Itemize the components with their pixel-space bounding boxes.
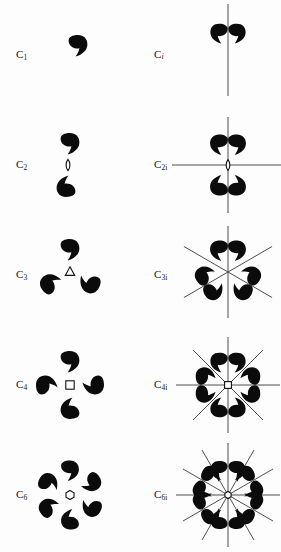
comma-motif <box>210 175 228 196</box>
threefold-triangle-icon <box>65 267 74 276</box>
comma-motif <box>228 240 246 261</box>
diagram-row-3: C3 <box>0 220 281 330</box>
diagram-row-2: C2 C2i <box>0 110 281 220</box>
twofold-lens-icon <box>66 159 70 170</box>
diagram-cell-c6: C6 <box>0 440 140 550</box>
diagram-cell-c1: C1 <box>0 0 140 110</box>
comma-motif <box>61 133 80 155</box>
comma-motif <box>228 134 246 155</box>
diagram-cell-c3: C3 <box>0 220 140 330</box>
comma-motif <box>238 262 265 288</box>
diagram-cell-c4: C4 <box>0 330 140 440</box>
motif-stage-c4i <box>152 330 280 440</box>
comma-motif <box>36 376 58 395</box>
comma-motif <box>228 175 246 196</box>
diagram-cell-c2: C2 <box>0 110 140 220</box>
comma-motif <box>36 494 63 520</box>
diagram-cell-ci: Ci <box>140 0 281 110</box>
comma-motif <box>78 470 105 496</box>
diagram-row-1: C1 Ci <box>0 0 281 110</box>
motif-stage-c4 <box>20 330 140 440</box>
comma-motif <box>210 24 227 44</box>
comma-motif <box>210 134 228 155</box>
comma-motif <box>69 35 88 57</box>
comma-motif <box>37 270 65 297</box>
twofold-lens-icon <box>226 160 230 171</box>
comma-motif <box>82 376 104 395</box>
motif-stage-c3i <box>152 220 280 330</box>
comma-motif <box>192 262 219 288</box>
diagram-cell-c4i: C4i <box>140 330 281 440</box>
diagram-row-4: C4 <box>0 330 281 440</box>
comma-motif <box>229 510 246 529</box>
motif-stage-c1 <box>20 0 140 110</box>
motif-stage-c2i <box>152 110 280 220</box>
motif-stage-c6i <box>152 440 280 550</box>
comma-motif <box>210 240 228 261</box>
point-group-figure: C1 Ci <box>0 0 281 552</box>
motif-stage-c3 <box>20 220 140 330</box>
comma-motif <box>61 397 80 419</box>
comma-motif <box>78 494 105 520</box>
comma-motif <box>75 270 103 297</box>
comma-motif <box>61 509 79 530</box>
comma-motif <box>61 460 79 481</box>
diagram-row-5: C6 <box>0 440 281 550</box>
diagram-cell-c3i: C3i <box>140 220 281 330</box>
comma-motif <box>61 351 80 373</box>
fourfold-square-icon <box>225 382 232 389</box>
diagram-cell-c6i: C6i <box>140 440 281 550</box>
comma-motif <box>57 175 76 197</box>
comma-motif <box>61 239 80 261</box>
comma-motif <box>228 24 245 44</box>
diagram-cell-c2i: C2i <box>140 110 281 220</box>
sixfold-hexagon-icon <box>66 490 74 499</box>
fourfold-square-icon <box>66 381 74 389</box>
motif-stage-ci <box>152 0 280 110</box>
motif-stage-c2 <box>20 110 140 220</box>
motif-stage-c6 <box>20 440 140 550</box>
sixfold-hexagon-icon <box>225 491 231 498</box>
comma-motif <box>36 470 63 496</box>
